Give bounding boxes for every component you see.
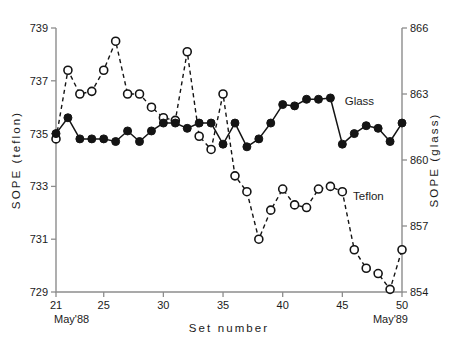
x-axis-tick-label: 45	[336, 299, 348, 311]
glass-data-point	[267, 119, 275, 127]
teflon-data-point	[255, 235, 263, 243]
glass-data-point	[195, 119, 203, 127]
y2-axis-tick-label: 860	[410, 154, 428, 166]
teflon-data-point	[374, 270, 382, 278]
x-axis-tick-label: 50	[396, 299, 408, 311]
teflon-data-point	[183, 48, 191, 56]
y-axis-tick-label: 735	[30, 128, 48, 140]
y2-axis-tick-label: 863	[410, 88, 428, 100]
y-axis-tick-label: 731	[30, 233, 48, 245]
y-axis-tick-label: 729	[30, 286, 48, 298]
glass-data-point	[136, 138, 144, 146]
teflon-data-point	[195, 132, 203, 140]
y2-axis-tick-label: 866	[410, 22, 428, 34]
glass-data-point	[398, 119, 406, 127]
teflon-data-point	[350, 246, 358, 254]
teflon-data-point	[112, 37, 120, 45]
teflon-series-label: Teflon	[353, 190, 384, 202]
teflon-data-point	[338, 188, 346, 196]
y2-axis-tick-label: 854	[410, 286, 428, 298]
y-axis-title: SOPE (teflon)	[10, 111, 22, 209]
x-axis-tick-label: 40	[277, 299, 289, 311]
teflon-data-point	[124, 90, 132, 98]
glass-data-point	[303, 95, 311, 103]
glass-data-point	[159, 119, 167, 127]
glass-series-label: Glass	[345, 95, 375, 107]
x-axis-tick-label: 30	[157, 299, 169, 311]
teflon-data-point	[88, 87, 96, 95]
glass-data-point	[88, 135, 96, 143]
glass-data-point	[314, 95, 322, 103]
glass-data-point	[112, 138, 120, 146]
data-series-layer	[52, 37, 406, 293]
glass-data-point	[100, 135, 108, 143]
glass-data-point	[338, 140, 346, 148]
teflon-data-point	[207, 145, 215, 153]
glass-data-point	[243, 143, 251, 151]
glass-data-point	[219, 140, 227, 148]
glass-data-point	[326, 94, 334, 102]
teflon-data-point	[243, 188, 251, 196]
teflon-data-point	[386, 285, 394, 293]
glass-data-point	[64, 114, 72, 122]
y2-axis-tick-label: 857	[410, 220, 428, 232]
glass-data-point	[147, 127, 155, 135]
glass-data-point	[255, 135, 263, 143]
axis-frame	[56, 28, 402, 292]
teflon-data-point	[219, 90, 227, 98]
glass-data-point	[374, 124, 382, 132]
teflon-data-point	[267, 206, 275, 214]
glass-data-point	[171, 119, 179, 127]
x-axis-tick-label: 21	[50, 299, 62, 311]
x-axis-tick-label: 25	[98, 299, 110, 311]
teflon-data-point	[76, 90, 84, 98]
glass-data-point	[124, 127, 132, 135]
glass-data-point	[279, 101, 287, 109]
glass-data-point	[76, 135, 84, 143]
teflon-data-point	[291, 201, 299, 209]
teflon-data-point	[279, 185, 287, 193]
y2-axis-title: SOPE (glass)	[428, 113, 440, 208]
sope-time-series-chart: 7297317337357377398548578608638662125303…	[0, 0, 454, 339]
glass-data-point	[207, 119, 215, 127]
y-axis-tick-label: 733	[30, 180, 48, 192]
y-axis-tick-label: 737	[30, 75, 48, 87]
teflon-data-point	[147, 103, 155, 111]
glass-data-point	[183, 124, 191, 132]
teflon-data-point	[326, 182, 334, 190]
teflon-data-point	[100, 66, 108, 74]
x-axis-title: Set number	[189, 322, 269, 334]
glass-data-point	[291, 102, 299, 110]
x-axis-tick-label: 35	[217, 299, 229, 311]
teflon-data-point	[64, 66, 72, 74]
teflon-data-point	[398, 246, 406, 254]
x-axis-start-date-label: May'88	[54, 313, 89, 325]
labels-layer: 7297317337357377398548578608638662125303…	[10, 22, 440, 334]
y-axis-tick-label: 739	[30, 22, 48, 34]
teflon-data-point	[314, 185, 322, 193]
teflon-data-point	[362, 264, 370, 272]
glass-data-point	[231, 119, 239, 127]
chart-figure: 7297317337357377398548578608638662125303…	[0, 0, 454, 339]
glass-data-point	[362, 122, 370, 130]
glass-data-point	[386, 138, 394, 146]
glass-data-point	[52, 130, 60, 138]
teflon-data-point	[136, 90, 144, 98]
x-axis-end-date-label: May'89	[373, 313, 408, 325]
teflon-data-point	[231, 172, 239, 180]
teflon-data-point	[303, 204, 311, 212]
teflon-series-line	[56, 41, 402, 289]
glass-data-point	[350, 130, 358, 138]
